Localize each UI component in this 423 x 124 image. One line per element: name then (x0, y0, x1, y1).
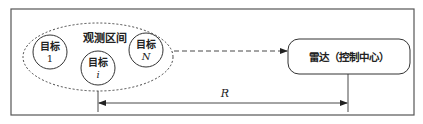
target-i-index: i (96, 69, 99, 80)
observation-region-label: 观测区间 (83, 31, 127, 45)
target-1-label: 目标 (40, 40, 60, 52)
radar-label: 雷达（控制中心） (309, 51, 389, 63)
diagram-canvas: 观测区间 目标 1 目标 i 目标 N 雷达（控制中心） R (0, 0, 423, 124)
target-n: 目标 N (129, 33, 163, 67)
target-1: 目标 1 (33, 35, 67, 69)
target-1-index: 1 (47, 53, 53, 64)
target-i: 目标 i (81, 51, 115, 85)
target-i-label: 目标 (88, 56, 108, 68)
target-n-label: 目标 (136, 38, 156, 50)
distance-label: R (220, 87, 229, 100)
target-n-index: N (141, 51, 152, 62)
